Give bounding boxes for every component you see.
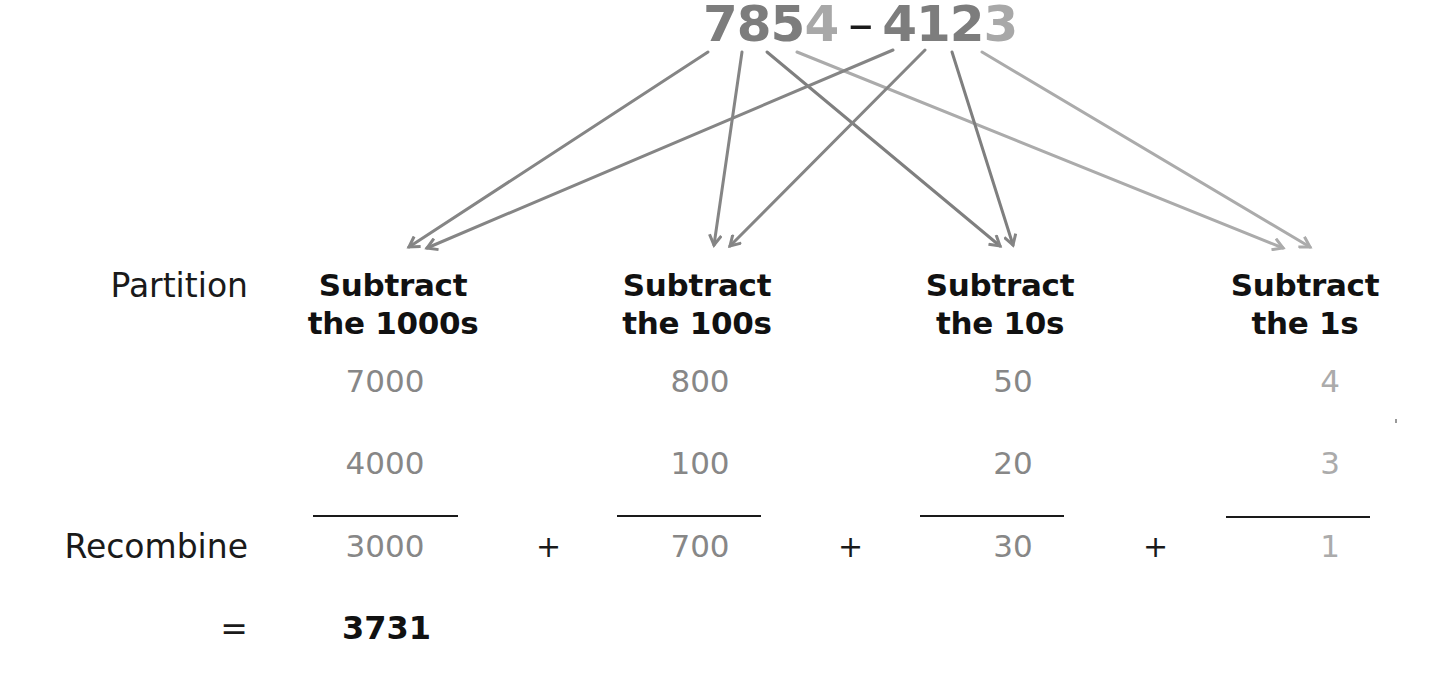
partition-arrows xyxy=(0,0,1449,260)
ones-result-value: 1 xyxy=(1235,526,1425,566)
column-heading-ones: Subtract the 1s xyxy=(1210,266,1400,342)
arrow-3-to-ones xyxy=(982,52,1310,247)
arrow-4-to-ones xyxy=(797,52,1283,248)
plus-sign: + xyxy=(536,527,561,567)
tens-divider-line xyxy=(920,515,1064,517)
partition-label: Partition xyxy=(28,266,248,305)
column-heading-hundreds: Subtract the 100s xyxy=(602,266,792,342)
arrow-2-to-tens xyxy=(952,52,1013,245)
tens-result-value: 30 xyxy=(918,526,1108,566)
thousands-subtrahend-value: 4000 xyxy=(290,443,480,483)
tens-subtrahend-value: 20 xyxy=(918,443,1108,483)
ones-subtrahend-value: 3 xyxy=(1235,443,1425,483)
heading-line1: Subtract xyxy=(298,266,488,304)
equals-label: = xyxy=(28,609,248,648)
thousands-minuend-value: 7000 xyxy=(290,361,480,401)
hundreds-subtrahend-value: 100 xyxy=(605,443,795,483)
heading-line2: the 100s xyxy=(602,304,792,342)
stray-mark xyxy=(1395,419,1397,423)
plus-sign: + xyxy=(838,527,863,567)
final-answer: 3731 xyxy=(342,608,431,648)
heading-line2: the 1000s xyxy=(298,304,488,342)
arrow-8-to-hundreds xyxy=(714,52,742,245)
hundreds-result-value: 700 xyxy=(605,526,795,566)
arrow-7-to-thousands xyxy=(409,52,708,247)
heading-line1: Subtract xyxy=(905,266,1095,304)
heading-line1: Subtract xyxy=(602,266,792,304)
heading-line1: Subtract xyxy=(1210,266,1400,304)
thousands-divider-line xyxy=(313,515,458,517)
plus-sign: + xyxy=(1143,527,1168,567)
hundreds-minuend-value: 800 xyxy=(605,361,795,401)
arrow-5-to-tens xyxy=(767,52,1000,246)
ones-minuend-value: 4 xyxy=(1235,361,1425,401)
heading-line2: the 10s xyxy=(905,304,1095,342)
arrow-4-to-thousands xyxy=(427,50,893,248)
thousands-result-value: 3000 xyxy=(290,526,480,566)
ones-divider-line xyxy=(1226,516,1370,518)
hundreds-divider-line xyxy=(617,515,761,517)
tens-minuend-value: 50 xyxy=(918,361,1108,401)
recombine-label: Recombine xyxy=(28,527,248,566)
heading-line2: the 1s xyxy=(1210,304,1400,342)
column-heading-thousands: Subtract the 1000s xyxy=(298,266,488,342)
column-heading-tens: Subtract the 10s xyxy=(905,266,1095,342)
